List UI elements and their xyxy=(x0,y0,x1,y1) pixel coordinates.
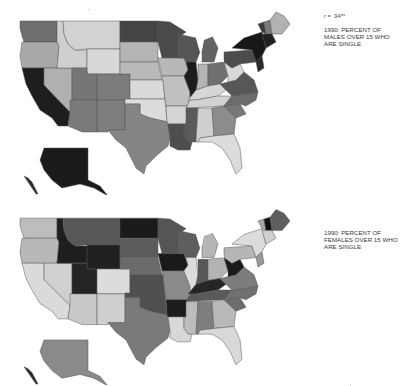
state-nm xyxy=(97,294,125,325)
state-sd xyxy=(120,238,158,257)
state-ia xyxy=(158,254,188,271)
state-in xyxy=(196,64,208,90)
state-nd xyxy=(120,218,158,238)
state-fl xyxy=(198,134,242,174)
state-nm xyxy=(97,100,125,132)
us-choropleth-males xyxy=(0,0,310,195)
state-wa xyxy=(20,218,57,238)
state-ms xyxy=(184,108,198,142)
state-wy xyxy=(87,245,120,269)
state-ms xyxy=(184,302,198,335)
correlation-label: r = .94** xyxy=(324,13,345,19)
state-or xyxy=(20,238,59,263)
state-hi xyxy=(24,176,38,194)
state-or xyxy=(20,42,59,68)
state-co xyxy=(97,269,130,294)
state-sd xyxy=(120,42,158,62)
state-ak xyxy=(40,340,108,385)
state-mi xyxy=(202,233,218,258)
state-mt xyxy=(63,218,120,246)
caption-females: 1990: PERCENT OF FEMALES OVER 15 WHO ARE… xyxy=(324,229,402,251)
state-ar xyxy=(166,106,188,124)
state-az xyxy=(68,100,97,132)
state-me xyxy=(270,210,290,231)
state-ks xyxy=(130,275,165,293)
state-ia xyxy=(158,58,188,76)
state-ks xyxy=(130,80,165,99)
state-me xyxy=(270,12,290,34)
state-fl xyxy=(198,327,242,365)
state-hi xyxy=(24,367,38,384)
map-females-single xyxy=(0,198,310,385)
us-choropleth-females xyxy=(0,198,310,385)
state-in xyxy=(196,259,208,284)
state-mt xyxy=(63,21,120,50)
state-wa xyxy=(20,21,57,42)
state-nd xyxy=(120,21,158,42)
state-mi xyxy=(202,36,218,62)
state-wy xyxy=(87,49,120,74)
caption-males: 1990: PERCENT OF MALES OVER 15 WHO ARE S… xyxy=(324,26,402,48)
map-males-single xyxy=(0,0,310,195)
state-az xyxy=(68,294,97,325)
state-ar xyxy=(166,300,188,317)
state-co xyxy=(97,74,130,100)
state-ak xyxy=(40,148,108,195)
scan-speck xyxy=(88,9,89,10)
